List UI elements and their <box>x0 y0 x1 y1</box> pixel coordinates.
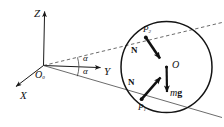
point-P2-label: P2 <box>143 25 151 34</box>
normal-force-upper-arrow <box>146 38 160 59</box>
arc-alpha-lower <box>77 67 79 76</box>
upper-ray-dashed <box>44 23 223 66</box>
lower-ray-solid <box>44 66 223 118</box>
origin-subscript: 0 <box>42 75 45 80</box>
weight-force-label: mg <box>170 88 182 98</box>
origin-O0-label: O0 <box>35 70 45 80</box>
sphere-center-label: O <box>172 60 179 70</box>
y-axis-line <box>44 66 101 68</box>
P2-subscript: 2 <box>149 29 152 34</box>
z-axis-line <box>44 12 45 66</box>
point-P1-label: P1 <box>138 103 146 112</box>
normal-force-upper-label: N <box>131 46 138 55</box>
force-vector-group <box>142 38 167 100</box>
angle-alpha-lower-label: α <box>83 67 88 76</box>
diagram-canvas <box>0 0 224 127</box>
physics-diagram: Z Y X O0 α α P2 P1 N N O mg <box>0 0 224 127</box>
z-axis-label: Z <box>34 8 40 19</box>
x-axis-label: X <box>20 90 27 101</box>
y-axis-label: Y <box>104 66 110 77</box>
P1-subscript: 1 <box>144 107 147 112</box>
weight-gravity-letter: g <box>177 87 182 98</box>
angle-alpha-upper-label: α <box>83 54 88 63</box>
normal-force-lower-label: N <box>128 78 135 87</box>
normal-force-lower-arrow <box>142 78 161 100</box>
arc-alpha-upper <box>78 57 79 66</box>
